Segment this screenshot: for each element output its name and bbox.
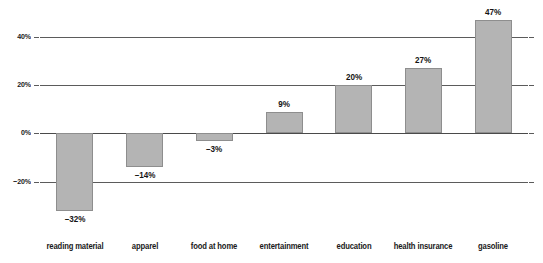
bar[interactable] bbox=[126, 133, 163, 167]
y-tick-mark bbox=[34, 37, 39, 38]
plot-area: 40%20%0%−20% –32%–14%–3%9%20%27%47% bbox=[40, 8, 528, 230]
bar[interactable] bbox=[335, 85, 372, 133]
gridline bbox=[40, 182, 528, 183]
bar-value-label: 27% bbox=[396, 55, 450, 65]
category-label: gasoline bbox=[448, 241, 538, 251]
bar-value-label: 20% bbox=[327, 72, 381, 82]
y-axis-tick-label: −20% bbox=[3, 177, 31, 186]
bar[interactable] bbox=[196, 133, 233, 140]
gridline bbox=[40, 37, 528, 38]
bar[interactable] bbox=[266, 112, 303, 134]
zero-line bbox=[40, 133, 528, 134]
y-tick-mark bbox=[34, 85, 39, 86]
y-tick-mark bbox=[34, 133, 39, 134]
bar-value-label: –32% bbox=[48, 214, 102, 224]
bar-chart: 40%20%0%−20% –32%–14%–3%9%20%27%47% read… bbox=[0, 0, 543, 263]
bar-value-label: 47% bbox=[466, 7, 520, 17]
y-axis-tick-label: 40% bbox=[3, 32, 31, 41]
y-axis-tick-label: 0% bbox=[3, 128, 31, 137]
bar-value-label: 9% bbox=[257, 99, 311, 109]
bar[interactable] bbox=[56, 133, 93, 210]
y-tick-mark bbox=[34, 182, 39, 183]
y-tick-mark bbox=[529, 133, 534, 134]
bar-value-label: –3% bbox=[187, 144, 241, 154]
bar[interactable] bbox=[405, 68, 442, 133]
y-tick-mark bbox=[529, 85, 534, 86]
y-tick-mark bbox=[529, 37, 534, 38]
bar[interactable] bbox=[475, 20, 512, 133]
y-axis-tick-label: 20% bbox=[3, 80, 31, 89]
y-tick-mark bbox=[529, 182, 534, 183]
gridline bbox=[40, 85, 528, 86]
bar-value-label: –14% bbox=[118, 170, 172, 180]
